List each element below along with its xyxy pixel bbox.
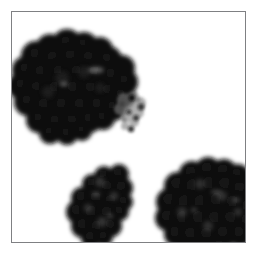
specimen-field <box>12 12 245 242</box>
micrograph-viewport <box>0 0 258 257</box>
lower-right-aggregate <box>150 150 245 242</box>
small-sparse-cluster <box>104 80 160 142</box>
micrograph-frame <box>11 11 246 243</box>
lower-center-aggregate <box>60 152 146 242</box>
